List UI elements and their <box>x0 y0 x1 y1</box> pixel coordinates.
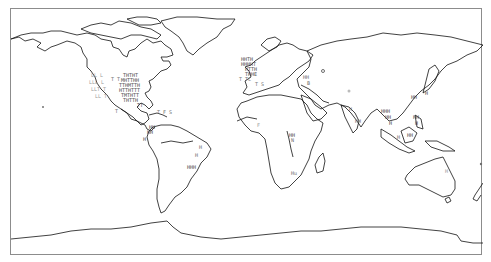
svg-text:H: H <box>397 134 400 140</box>
world-map-frame: THTHT MHTTHH TTHMTTH HTTHTTT TMTHTT THTT… <box>10 8 482 255</box>
svg-text:LLL L: LLL L <box>89 79 104 85</box>
world-map: THTHT MHTTHH TTHMTTH HTTHTTT TMTHTT THTT… <box>11 9 483 256</box>
coast-antarctica <box>11 221 483 243</box>
svg-text:LLT T: LLT T <box>91 86 106 92</box>
cluster-eastern-australia: H <box>445 168 448 174</box>
svg-text:LL L: LL L <box>91 72 103 78</box>
cluster-southeast-asia: HHH HH H HH H HH H <box>381 108 419 140</box>
svg-text:F: F <box>257 122 260 128</box>
svg-text:T: T <box>115 108 118 114</box>
svg-text:HH: HH <box>407 132 413 138</box>
svg-text:H: H <box>415 120 418 126</box>
cluster-eastern-us: THTHT MHTTHH TTHMTTH HTTHTTT TMTHTT THTT… <box>119 72 143 108</box>
svg-text:HH: HH <box>147 129 153 135</box>
coast-greenland <box>161 17 235 55</box>
cluster-east-africa: HH N <box>289 132 295 143</box>
cluster-north-south-america: HH HH H <box>143 124 155 142</box>
svg-text:T T: T T <box>111 76 120 82</box>
svg-text:H: H <box>143 136 146 142</box>
svg-text:Hu: Hu <box>291 170 297 176</box>
cluster-japan: HH H <box>411 90 428 100</box>
svg-text:T TC: T TC <box>239 76 251 82</box>
coast-south-america <box>147 125 211 213</box>
cluster-pacific <box>480 163 482 165</box>
cluster-central-asia <box>348 90 351 93</box>
coast-north-america <box>11 31 173 125</box>
coastlines <box>11 17 483 243</box>
svg-text:B: B <box>307 80 310 86</box>
cluster-western-europe: HHTH HHHHT HTTH THHE T TC T S <box>239 56 264 87</box>
svg-text:H: H <box>425 90 428 96</box>
svg-text:THTTH: THTTH <box>123 97 138 103</box>
svg-text:H: H <box>445 168 448 174</box>
svg-text:H: H <box>389 120 392 126</box>
svg-text:LL T: LL T <box>95 93 107 99</box>
svg-text:HH: HH <box>411 94 417 100</box>
svg-text:T S: T S <box>255 81 264 87</box>
coast-australia <box>405 157 455 197</box>
cluster-india: H HH <box>349 106 361 124</box>
cluster-west-africa: F <box>257 122 260 128</box>
svg-text:H: H <box>199 144 202 150</box>
svg-text:TT: TT <box>137 102 143 108</box>
svg-text:T F S: T F S <box>157 109 172 115</box>
svg-text:H: H <box>349 106 352 112</box>
coast-africa <box>237 95 323 189</box>
svg-text:HH: HH <box>355 118 361 124</box>
svg-text:N: N <box>291 137 294 143</box>
svg-text:H: H <box>195 152 198 158</box>
cluster-southern-africa: Hu <box>291 170 297 176</box>
svg-text:HHH: HHH <box>187 164 196 170</box>
cluster-western-us: LL L LLL L LLT T LL T T T <box>89 72 120 99</box>
cluster-caucasus: HH B <box>303 70 325 87</box>
